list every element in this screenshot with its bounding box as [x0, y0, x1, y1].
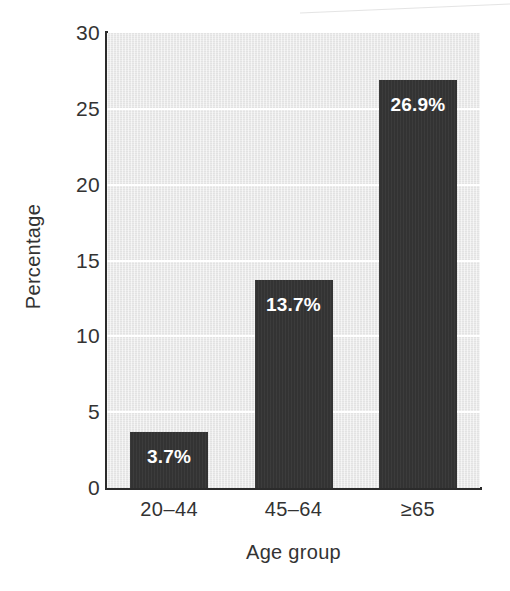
y-axis-title: Percentage [22, 162, 45, 352]
y-axis-tick-label: 15 [40, 250, 100, 271]
y-axis-tick-label: 20 [40, 174, 100, 195]
bar: 26.9% [379, 80, 457, 488]
x-axis-category-label: ≥65 [348, 498, 488, 520]
x-axis-title: Age group [107, 541, 480, 564]
x-axis-category-label: 45–64 [224, 498, 364, 520]
bar: 13.7% [255, 280, 333, 488]
bar: 3.7% [130, 432, 208, 488]
bar-value-label: 26.9% [379, 94, 457, 116]
bar-value-label: 13.7% [255, 294, 333, 316]
x-axis-category-label: 20–44 [99, 498, 239, 520]
bar-value-label: 3.7% [130, 446, 208, 468]
bar-chart: 3.7%13.7%26.9% 051015202530 20–4445–64≥6… [0, 0, 510, 591]
y-axis-tick-label: 5 [40, 401, 100, 422]
y-axis-tick-label: 10 [40, 325, 100, 346]
plot-area: 3.7%13.7%26.9% [107, 33, 480, 488]
bar-texture [379, 80, 457, 488]
y-axis-tick-label: 30 [40, 22, 100, 43]
scan-artifact [300, 2, 510, 16]
y-axis-tick-label: 25 [40, 98, 100, 119]
y-axis-tick-label: 0 [40, 477, 100, 498]
